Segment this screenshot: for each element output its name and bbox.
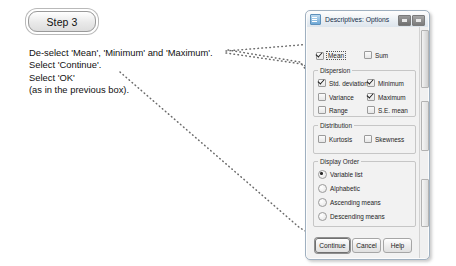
help-button-label: Help bbox=[391, 242, 405, 249]
continue-button-label: Continue bbox=[319, 242, 345, 249]
checkbox-skewness-box[interactable] bbox=[364, 135, 372, 143]
instruction-line-4: (as in the previous box). bbox=[29, 84, 249, 96]
checkbox-std-deviation[interactable]: Std. deviation bbox=[318, 79, 368, 87]
group-distribution-title: Distribution bbox=[318, 122, 354, 129]
instruction-line-1: De-select 'Mean', 'Minimum' and 'Maximum… bbox=[29, 47, 249, 59]
checkbox-variance-box[interactable] bbox=[318, 93, 326, 101]
checkbox-maximum-label: Maximum bbox=[378, 94, 406, 101]
connector-to-continue bbox=[120, 72, 314, 236]
radio-alphabetic-label: Alphabetic bbox=[330, 185, 360, 192]
radio-alphabetic-button[interactable] bbox=[318, 184, 327, 193]
checkbox-variance[interactable]: Variance bbox=[318, 93, 354, 101]
checkbox-minimum-label: Minimum bbox=[378, 80, 404, 87]
checkbox-std-deviation-label: Std. deviation bbox=[329, 80, 368, 87]
continue-button[interactable]: Continue bbox=[315, 238, 350, 253]
checkbox-sum[interactable]: Sum bbox=[364, 51, 388, 59]
checkbox-sum-box[interactable] bbox=[364, 51, 372, 59]
radio-ascending-means-button[interactable] bbox=[318, 198, 327, 207]
step-badge: Step 3 bbox=[28, 11, 96, 32]
help-button[interactable]: Help bbox=[383, 238, 412, 253]
dialog-titlebar[interactable]: Descriptives: Options bbox=[307, 12, 428, 28]
descriptives-options-dialog[interactable]: Descriptives: Options Mean Sum Dispersio… bbox=[305, 10, 430, 260]
checkbox-range[interactable]: Range bbox=[318, 106, 348, 114]
checkbox-kurtosis-box[interactable] bbox=[318, 135, 326, 143]
dialog-client-area: Mean Sum Dispersion Std. deviation Minim… bbox=[307, 27, 420, 258]
checkbox-maximum[interactable]: Maximum bbox=[367, 93, 406, 101]
checkbox-range-label: Range bbox=[329, 107, 348, 114]
close-icon[interactable] bbox=[412, 15, 425, 26]
checkbox-minimum-box[interactable] bbox=[367, 79, 375, 87]
radio-descending-means-button[interactable] bbox=[318, 212, 327, 221]
checkbox-variance-label: Variance bbox=[329, 94, 354, 101]
checkbox-mean-box[interactable] bbox=[316, 52, 324, 60]
radio-variable-list[interactable]: Variable list bbox=[318, 170, 363, 179]
radio-descending-means-label: Descending means bbox=[330, 213, 385, 220]
checkbox-kurtosis[interactable]: Kurtosis bbox=[318, 135, 352, 143]
checkbox-se-mean-box[interactable] bbox=[367, 106, 375, 114]
dialog-icon bbox=[310, 14, 321, 25]
checkbox-std-deviation-box[interactable] bbox=[318, 79, 326, 87]
instruction-line-2: Select 'Continue'. bbox=[29, 59, 249, 71]
minimize-icon[interactable] bbox=[398, 15, 411, 26]
checkbox-sum-label: Sum bbox=[375, 52, 388, 59]
radio-ascending-means[interactable]: Ascending means bbox=[318, 198, 381, 207]
checkbox-se-mean-label: S.E. mean bbox=[378, 107, 408, 114]
step-badge-label: Step 3 bbox=[47, 16, 78, 28]
checkbox-mean[interactable]: Mean bbox=[316, 51, 346, 60]
checkbox-se-mean[interactable]: S.E. mean bbox=[367, 106, 408, 114]
checkbox-maximum-box[interactable] bbox=[367, 93, 375, 101]
checkbox-kurtosis-label: Kurtosis bbox=[329, 136, 352, 143]
checkbox-mean-label: Mean bbox=[326, 51, 346, 60]
radio-variable-list-button[interactable] bbox=[318, 170, 327, 179]
checkbox-skewness-label: Skewness bbox=[375, 136, 404, 143]
radio-variable-list-label: Variable list bbox=[330, 171, 363, 178]
dialog-title: Descriptives: Options bbox=[325, 16, 389, 23]
instruction-text: De-select 'Mean', 'Minimum' and 'Maximum… bbox=[29, 47, 249, 96]
radio-ascending-means-label: Ascending means bbox=[330, 199, 381, 206]
checkbox-range-box[interactable] bbox=[318, 106, 326, 114]
dialog-vertical-scrollbar[interactable] bbox=[419, 27, 428, 258]
radio-descending-means[interactable]: Descending means bbox=[318, 212, 385, 221]
instruction-line-3: Select 'OK' bbox=[29, 72, 249, 84]
radio-alphabetic[interactable]: Alphabetic bbox=[318, 184, 360, 193]
scrollbar-thumb-3[interactable] bbox=[421, 179, 429, 227]
cancel-button[interactable]: Cancel bbox=[352, 238, 381, 253]
group-dispersion-title: Dispersion bbox=[318, 67, 352, 74]
checkbox-minimum[interactable]: Minimum bbox=[367, 79, 404, 87]
checkbox-skewness[interactable]: Skewness bbox=[364, 135, 404, 143]
group-display-order-title: Display Order bbox=[318, 158, 361, 165]
cancel-button-label: Cancel bbox=[356, 242, 377, 249]
scrollbar-thumb-2[interactable] bbox=[421, 101, 429, 151]
window-button-group bbox=[398, 15, 425, 26]
scrollbar-thumb-1[interactable] bbox=[421, 30, 429, 88]
